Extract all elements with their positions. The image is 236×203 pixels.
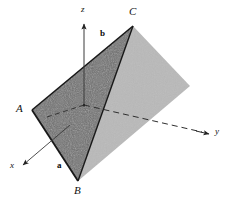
axis-label-y: y [215, 127, 219, 136]
vector-label-a: a [57, 161, 62, 170]
vertex-label-A: A [16, 103, 23, 114]
figure-canvas [0, 0, 236, 203]
vertex-label-B: B [74, 185, 81, 196]
axis-label-z: z [81, 5, 85, 14]
vector-figure: A B C a b z y x [0, 0, 236, 203]
axis-label-x: x [10, 161, 14, 170]
y-axis-solid-tip [196, 131, 209, 134]
origin-point [83, 104, 85, 106]
vertex-label-C: C [129, 6, 136, 17]
vector-label-b: b [100, 29, 105, 38]
